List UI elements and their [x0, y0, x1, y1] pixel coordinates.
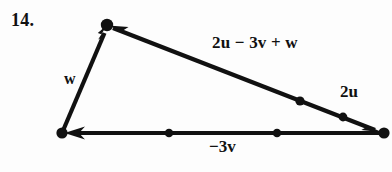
subdivision-dot — [339, 113, 348, 122]
vector-triangle-diagram — [0, 0, 392, 172]
subdivision-dot — [273, 129, 282, 138]
subdivision-dot — [165, 129, 174, 138]
subdivision-dot — [295, 96, 304, 105]
vector-label-neg3v: −3v — [209, 138, 236, 155]
vector-label-sum: 2u − 3v + w — [212, 34, 298, 51]
exercise-number: 14. — [11, 11, 34, 29]
vector-label-w: w — [64, 71, 76, 87]
bottom-right-vertex-dot — [378, 127, 389, 138]
bottom-left-vertex-dot — [56, 127, 67, 138]
top-vertex-dot — [101, 19, 113, 31]
vector-label-2u: 2u — [340, 83, 358, 100]
figure-page: 14. w 2u − 3v + w 2u −3v — [0, 0, 392, 172]
